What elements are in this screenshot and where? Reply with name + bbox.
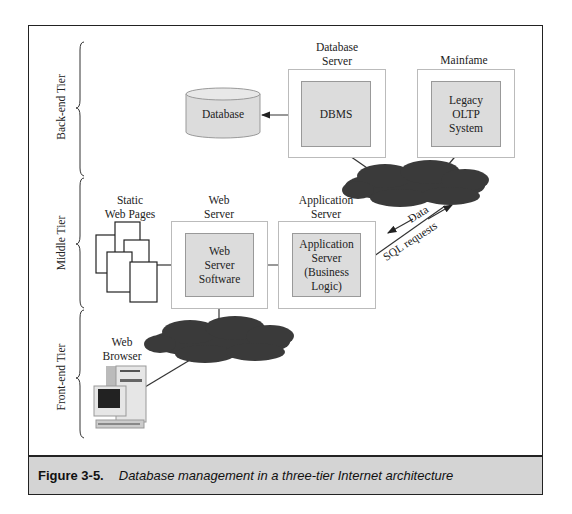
web-browser-title: Web Browser: [92, 335, 152, 363]
dbms-box: DBMS: [301, 81, 371, 147]
computer-icon: [94, 366, 146, 428]
static-pages-title: Static Web Pages: [95, 193, 165, 221]
web-server-software-box: Web Server Software: [185, 233, 254, 297]
static-pages-icon: [96, 222, 157, 302]
database-label: Database: [186, 107, 260, 121]
database-server-title: Database Server: [290, 40, 384, 68]
legacy-oltp-box: Legacy OLTP System: [431, 81, 501, 147]
tier-braces: [76, 42, 84, 438]
figure-caption-text: Database management in a three-tier Inte…: [119, 468, 454, 483]
mainframe-title: Mainfame: [416, 53, 512, 67]
app-server-title: Application Server: [278, 193, 374, 221]
web-server-title: Web Server: [171, 193, 267, 221]
app-server-logic-box: Application Server (Business Logic): [292, 233, 361, 297]
tier-label-middle: Middle Tier: [55, 183, 67, 303]
figure-caption: Figure 3-5.Database management in a thre…: [28, 455, 543, 495]
tier-label-front-end: Front-end Tier: [55, 317, 67, 437]
figure-number: Figure 3-5.: [38, 468, 104, 483]
tier-label-back-end: Back-end Tier: [55, 47, 67, 167]
network-cloud-bottom: [144, 316, 294, 363]
